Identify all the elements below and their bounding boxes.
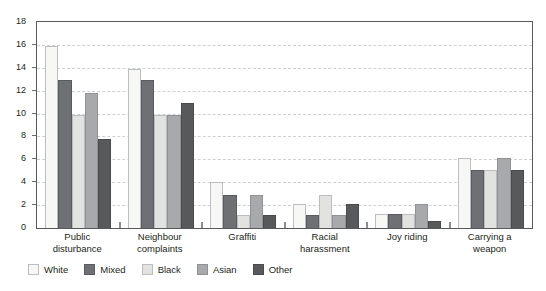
bar [263, 215, 276, 228]
bar [128, 69, 141, 228]
x-axis-label-line: Carrying a [439, 231, 542, 243]
bar [250, 195, 263, 228]
bar [98, 139, 111, 228]
bar [471, 170, 484, 228]
y-tick-label: 12 [16, 85, 26, 94]
group-separator-tick [449, 222, 451, 228]
bar [85, 93, 98, 228]
bar [402, 214, 415, 228]
bar [415, 204, 428, 228]
legend-item: White [28, 264, 68, 275]
bar [154, 115, 167, 228]
group-separator-tick [119, 222, 121, 228]
bar [45, 46, 58, 228]
legend-swatch-icon [28, 264, 39, 275]
legend-swatch-icon [142, 264, 153, 275]
bar [332, 215, 345, 228]
bar [458, 158, 471, 228]
bar [210, 182, 223, 228]
legend-item: Other [253, 264, 293, 275]
y-tick-label: 14 [16, 62, 26, 71]
legend-label: Black [158, 265, 181, 275]
legend-item: Asian [197, 264, 237, 275]
y-tick-label: 4 [21, 177, 26, 186]
x-axis-label: Carrying aweapon [439, 231, 542, 255]
x-axis-label-line: complaints [109, 243, 212, 255]
bar [72, 115, 85, 228]
group-separator-tick [201, 222, 203, 228]
legend-swatch-icon [197, 264, 208, 275]
legend-swatch-icon [253, 264, 264, 275]
chart-legend: WhiteMixedBlackAsianOther [28, 264, 308, 275]
bar [306, 215, 319, 228]
bar [388, 214, 401, 228]
legend-swatch-icon [84, 264, 95, 275]
y-tick-label: 6 [21, 154, 26, 163]
legend-label: Other [269, 265, 293, 275]
y-tick-label: 10 [16, 108, 26, 117]
y-tick-label: 18 [16, 17, 26, 26]
bar [375, 214, 388, 228]
plot-area [36, 21, 533, 229]
grouped-bar-chart: 024681012141618 PublicdisturbanceNeighbo… [0, 0, 546, 291]
group-separator-tick [366, 222, 368, 228]
x-axis-label-line: harassment [274, 243, 377, 255]
bar [484, 170, 497, 228]
group-separator-tick [284, 222, 286, 228]
bar [167, 115, 180, 228]
bar [293, 204, 306, 228]
legend-label: White [44, 265, 68, 275]
bar [58, 80, 71, 228]
bar [497, 158, 510, 228]
bar [223, 195, 236, 228]
bar [237, 215, 250, 228]
legend-item: Mixed [84, 264, 125, 275]
legend-label: Asian [213, 265, 237, 275]
bar [319, 195, 332, 228]
bar [346, 204, 359, 228]
legend-label: Mixed [100, 265, 125, 275]
bar [511, 170, 524, 228]
bar [141, 80, 154, 228]
y-tick-label: 16 [16, 39, 26, 48]
y-tick-label: 2 [21, 200, 26, 209]
x-axis-label-line: weapon [439, 243, 542, 255]
bar [181, 103, 194, 228]
bars-layer [37, 22, 532, 228]
y-tick-label: 8 [21, 131, 26, 140]
bar [428, 221, 441, 228]
legend-item: Black [142, 264, 181, 275]
